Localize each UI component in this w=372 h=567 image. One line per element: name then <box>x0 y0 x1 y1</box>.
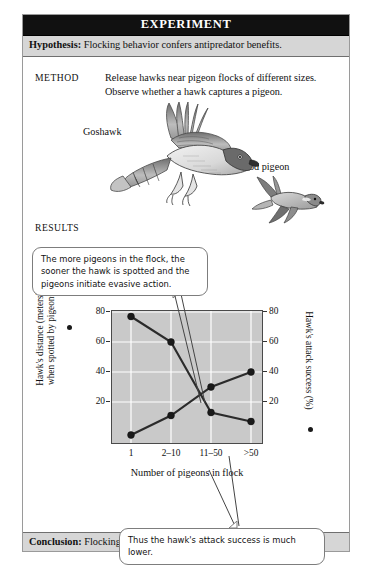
y-tick-right-60: 60 <box>269 336 291 346</box>
series-hawk-distance-markers <box>128 313 255 425</box>
callout-bottom: Thus the hawk's attack success is much l… <box>119 528 325 565</box>
goshawk-icon <box>109 100 259 212</box>
method-section: METHOD Release hawks near pigeon flocks … <box>23 71 349 100</box>
experiment-banner: EXPERIMENT <box>23 15 349 36</box>
y-axis-right-title: Hawk's attack success (%) <box>304 293 315 427</box>
experiment-figure: EXPERIMENT Hypothesis: Flocking behavior… <box>22 14 350 552</box>
y-tick-left-80: 80 <box>83 306 105 316</box>
hypothesis-text: Flocking behavior confers antipredator b… <box>84 39 282 50</box>
wood-pigeon-icon <box>251 176 325 224</box>
y-tick-left-20: 20 <box>83 396 105 406</box>
y-tick-left-60: 60 <box>83 336 105 346</box>
results-chart: Hawk's distance (meters) when spotted by… <box>23 298 351 503</box>
x-tick-2-10: 2–10 <box>151 448 191 458</box>
x-tick-11-50: 11–50 <box>191 448 231 458</box>
y-tick-right-40: 40 <box>269 366 291 376</box>
hypothesis-label: Hypothesis: <box>29 39 81 50</box>
plot-series-svg <box>112 311 262 443</box>
y-tick-left-40: 40 <box>83 366 105 376</box>
y-tick-right-20: 20 <box>269 396 291 406</box>
method-line-1: Release hawks near pigeon flocks of diff… <box>105 71 339 85</box>
callout-top: The more pigeons in the flock, the soone… <box>32 247 208 296</box>
series-hawk-distance-line <box>131 317 251 422</box>
legend-dot-left-series <box>67 325 72 330</box>
x-tick-1: 1 <box>111 448 151 458</box>
y-tick-right-80: 80 <box>269 306 291 316</box>
legend-dot-right-series <box>308 427 313 432</box>
method-text: Release hawks near pigeon flocks of diff… <box>105 71 339 100</box>
x-axis-title: Number of pigeons in flock <box>87 467 287 478</box>
bird-illustration: Goshawk Wood pigeon <box>23 98 349 216</box>
x-tick-gt50: >50 <box>231 448 271 458</box>
hypothesis-bar: Hypothesis: Flocking behavior confers an… <box>23 36 349 57</box>
method-label: METHOD <box>35 71 105 100</box>
plot-area <box>111 310 263 444</box>
series-attack-success-line <box>131 372 251 435</box>
conclusion-label: Conclusion: <box>29 536 82 547</box>
